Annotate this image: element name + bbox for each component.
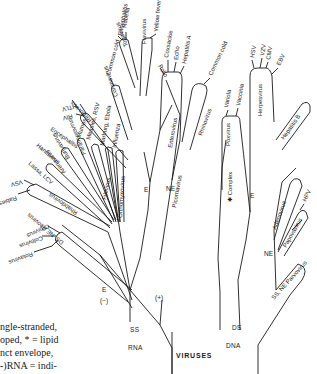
leaf-labels: Rubella Encephalitis Yellow fever Common…: [0, 0, 312, 265]
family-rhinovirus: Rhinovirus: [197, 108, 212, 137]
group-dna-ne: NE: [264, 250, 274, 257]
group-dna-e: E: [250, 192, 255, 199]
caption-line-2: oped, * = lipid: [0, 334, 58, 345]
rna-strand-label: SS: [130, 326, 140, 333]
label-rotavirus: Rotavirus: [8, 251, 34, 265]
family-herpesvirus: Herpesvirus: [257, 84, 263, 116]
label-influenza: Influenza: [111, 122, 121, 148]
family-flavivirus: Flavivirus: [141, 19, 147, 44]
group-labels: E (−) (+) E NE E NE: [100, 185, 274, 305]
group-plus-ne: NE: [166, 185, 176, 192]
group-plus-e: E: [144, 186, 149, 193]
label-coxsackie: Coxsackie: [163, 29, 174, 58]
label-yellow-fever: Yellow fever: [153, 0, 162, 32]
caption-line-4: -)RNA = indi-: [0, 360, 57, 372]
group-plus: (+): [155, 294, 163, 302]
label-polio: Polio: [157, 64, 169, 79]
label-variola: Variola: [223, 89, 232, 109]
group-e-minus: E: [102, 286, 107, 293]
label-common-cold-rhino: Common cold: [207, 40, 228, 76]
rna-type-label: RNA: [128, 344, 143, 351]
label-vaccinia: Vaccinia: [235, 83, 245, 107]
family-complex: ✱ Complex: [227, 172, 233, 202]
family-labels: DS, NE Reovirus Rhabdovirus Arenavirus B…: [26, 19, 308, 301]
caption: ngle-stranded, oped, * = lipid nct envel…: [0, 321, 58, 372]
label-hsv: HSV: [249, 45, 257, 58]
label-hpv: HPV: [301, 189, 312, 203]
label-cmv: CMV: [265, 46, 273, 60]
diagram-title: VIRUSES: [176, 352, 212, 359]
family-hepatitis-b: Hepatitis B: [280, 113, 302, 140]
base-labels: SS RNA DS DNA VIRUSES: [128, 324, 242, 359]
dna-type-label: DNA: [226, 342, 241, 349]
family-adenovirus: Adenovirus: [271, 200, 287, 230]
picorna-branches: [160, 60, 210, 260]
dna-strand-label: DS: [232, 324, 242, 331]
caption-line-1: ngle-stranded,: [0, 321, 57, 332]
label-echo: Echo: [173, 45, 180, 60]
reovirus-branch: [34, 226, 132, 308]
label-hepatitis-a: Hepatitis A: [181, 35, 192, 64]
label-ebv: EBV: [275, 53, 286, 66]
virus-classification-diagram: Rubella Encephalitis Yellow fever Common…: [0, 0, 317, 374]
caption-line-3: nct envelope,: [0, 347, 53, 358]
label-rabies: Rabies: [0, 195, 18, 207]
family-poxvirus: Poxvirus: [225, 123, 231, 146]
label-vsv: VSV: [10, 179, 23, 188]
group-minus: (−): [100, 297, 108, 305]
family-orthomyxovirus: Orthomyxovirus: [117, 176, 126, 218]
